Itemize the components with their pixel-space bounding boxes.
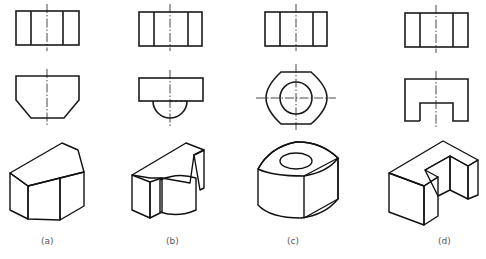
panel-label-c: (c)	[287, 236, 299, 246]
orthographic-projection-diagram	[0, 0, 486, 259]
top-view-b	[139, 70, 203, 127]
isometric-solid-a	[10, 143, 84, 220]
panel-a	[10, 4, 84, 220]
panel-label-b: (b)	[166, 236, 179, 246]
panel-b	[132, 4, 204, 218]
panel-label-d: (d)	[438, 236, 451, 246]
front-view-a	[16, 4, 79, 51]
front-view-d	[405, 5, 468, 53]
panel-label-a: (a)	[41, 236, 54, 246]
top-view-d	[405, 71, 468, 128]
isometric-solid-b	[132, 143, 204, 218]
top-view-a	[16, 69, 79, 127]
front-view-b	[139, 4, 202, 51]
panel-c	[256, 4, 338, 218]
front-view-c	[265, 4, 327, 51]
isometric-solid-c	[258, 142, 338, 218]
panel-d	[389, 5, 478, 225]
top-view-c	[256, 64, 336, 130]
isometric-solid-d	[389, 141, 478, 225]
